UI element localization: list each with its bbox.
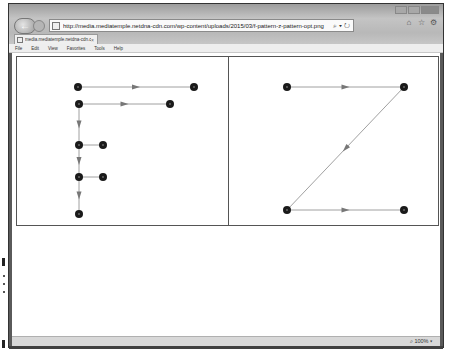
menu-edit[interactable]: Edit xyxy=(31,46,39,51)
url-text[interactable]: http://media.mediatemple.netdna-cdn.com/… xyxy=(63,23,333,29)
screenshot-stage: ← http://media.mediatemple.netdna-cdn.co… xyxy=(0,0,449,350)
search-refresh-icons[interactable]: ⌕ ▾ ↻ xyxy=(333,22,353,30)
back-arrow-icon: ← xyxy=(20,20,30,31)
toolbar-icons: ⌂ ☆ ⚙ xyxy=(405,19,437,27)
z-pattern-panel xyxy=(228,56,439,226)
arrow-icon xyxy=(77,192,82,200)
page-edge-marks xyxy=(0,255,6,350)
tab-page-icon xyxy=(17,37,23,43)
arrow-icon xyxy=(342,208,350,213)
arrow-icon xyxy=(132,85,140,90)
f-pattern-panel xyxy=(16,56,229,226)
minimize-button[interactable] xyxy=(395,6,407,14)
arrow-icon xyxy=(77,157,82,165)
browser-tab[interactable]: media.mediatemple.netdna-cdn.c... × xyxy=(14,34,98,44)
status-bar: ⌕ 100% ▾ xyxy=(12,336,440,346)
arrow-icon xyxy=(77,121,82,129)
home-icon[interactable]: ⌂ xyxy=(405,19,413,27)
gear-icon[interactable]: ⚙ xyxy=(429,19,437,27)
address-bar[interactable]: http://media.mediatemple.netdna-cdn.com/… xyxy=(49,19,354,32)
z-pattern-diagram xyxy=(229,57,440,227)
tab-close-icon[interactable]: × xyxy=(91,37,97,43)
menu-file[interactable]: File xyxy=(15,46,22,51)
window-controls xyxy=(395,6,439,14)
zoom-level-control[interactable]: ⌕ 100% ▾ xyxy=(410,338,432,345)
browser-window: ← http://media.mediatemple.netdna-cdn.co… xyxy=(8,3,444,348)
close-window-button[interactable] xyxy=(421,6,439,14)
star-icon[interactable]: ☆ xyxy=(417,19,425,27)
arrow-icon xyxy=(342,85,350,90)
menu-bar: File Edit View Favorites Tools Help xyxy=(9,44,443,53)
f-pattern-diagram xyxy=(17,57,230,227)
window-bottom-edge xyxy=(9,346,443,349)
menu-view[interactable]: View xyxy=(48,46,58,51)
page-icon xyxy=(52,22,60,30)
menu-tools[interactable]: Tools xyxy=(94,46,105,51)
forward-button[interactable] xyxy=(33,20,45,32)
tab-title: media.mediatemple.netdna-cdn.c... xyxy=(25,37,91,42)
page-content xyxy=(12,53,440,336)
menu-help[interactable]: Help xyxy=(114,46,123,51)
arrow-icon xyxy=(121,102,129,107)
maximize-button[interactable] xyxy=(408,6,420,14)
menu-favorites[interactable]: Favorites xyxy=(67,46,86,51)
